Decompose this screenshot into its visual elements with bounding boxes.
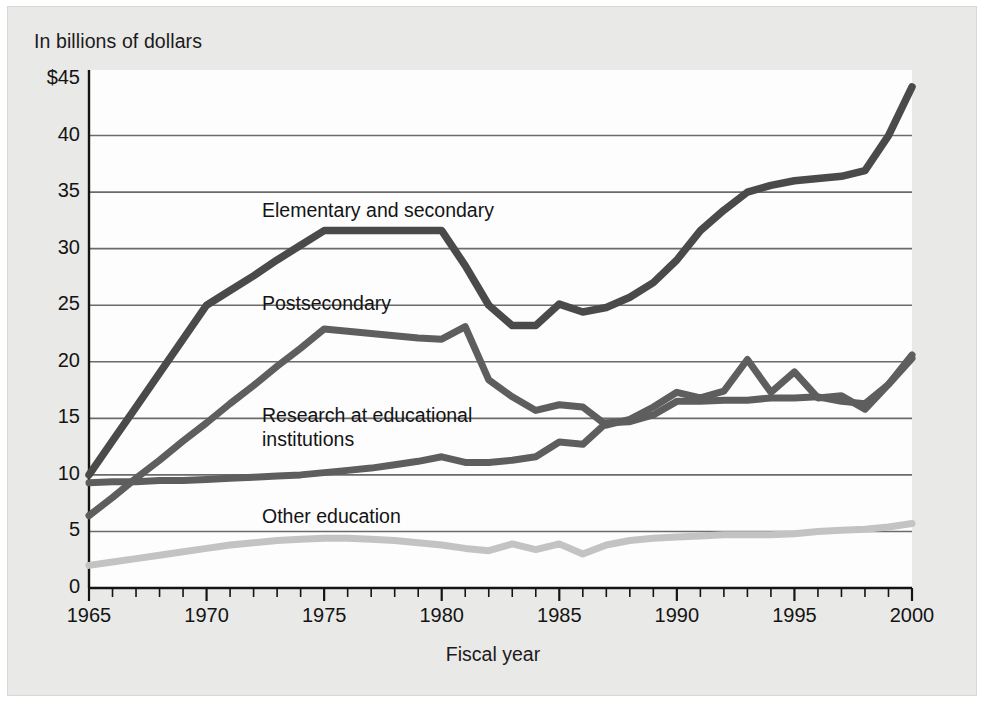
y-axis-tick-label: 15: [22, 405, 80, 428]
y-axis-tick-label: 25: [22, 292, 80, 315]
series-line: [89, 524, 912, 566]
series-label-postsecondary: Postsecondary: [262, 291, 391, 315]
chart-figure: In billions of dollars Fiscal year 05101…: [0, 0, 986, 711]
x-axis-title: Fiscal year: [0, 643, 986, 666]
y-axis-tick-label: 0: [22, 575, 80, 598]
x-axis-ticks: [89, 588, 912, 601]
y-axis-tick-label: 30: [22, 236, 80, 259]
x-axis-tick-label: 2000: [867, 604, 957, 627]
series-label-elementary: Elementary and secondary: [262, 198, 494, 222]
series-line: [89, 327, 912, 516]
x-axis-tick-label: 1990: [632, 604, 722, 627]
x-axis-tick-label: 1985: [514, 604, 604, 627]
x-axis-tick-label: 1965: [44, 604, 134, 627]
x-axis-tick-label: 1995: [749, 604, 839, 627]
y-axis-tick-label: 20: [22, 349, 80, 372]
x-axis-tick-label: 1975: [279, 604, 369, 627]
y-axis-tick-label: 40: [22, 123, 80, 146]
y-axis-tick-label: 10: [22, 462, 80, 485]
series-label-research: Research at educational institutions: [262, 403, 472, 451]
axis-lines: [89, 70, 912, 588]
y-axis-tick-label: 35: [22, 179, 80, 202]
series-label-other: Other education: [262, 504, 401, 528]
x-axis-tick-label: 1970: [162, 604, 252, 627]
y-axis-tick-label: 5: [22, 518, 80, 541]
x-axis-tick-label: 1980: [397, 604, 487, 627]
y-axis-tick-label: $45: [22, 66, 80, 89]
gridlines: [89, 136, 912, 532]
